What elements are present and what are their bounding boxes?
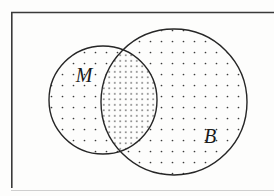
set-label-m: M [75,64,94,86]
venn-diagram-canvas: M B [0,0,274,196]
venn-diagram-figure: M B [0,0,274,196]
set-label-b: B [204,125,216,147]
